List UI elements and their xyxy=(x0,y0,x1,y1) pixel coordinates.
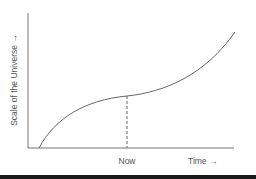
bottom-bar xyxy=(0,175,256,179)
scale-factor-curve xyxy=(39,32,235,148)
y-axis-label: Scale of the Universe → xyxy=(9,34,19,126)
now-label: Now xyxy=(118,156,135,166)
expansion-diagram: Scale of the Universe → Now Time → xyxy=(0,0,256,179)
diagram-canvas xyxy=(0,0,256,179)
x-axis-label: Time → xyxy=(188,156,217,166)
